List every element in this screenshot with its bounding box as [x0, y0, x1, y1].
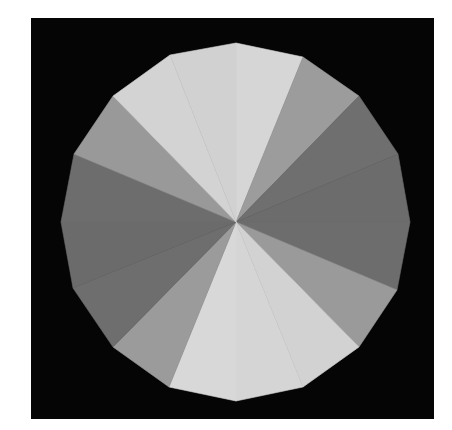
polygon-wedges	[61, 43, 410, 401]
sixteen-sided-pinwheel-figure	[0, 0, 452, 430]
image-stage	[0, 0, 452, 430]
